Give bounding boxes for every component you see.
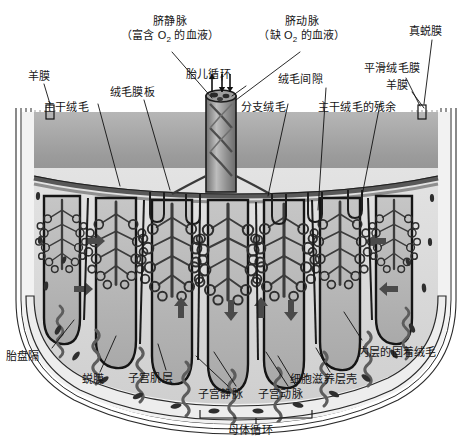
label-branch-villus: 分支绒毛	[241, 101, 286, 115]
label-amnion-left: 羊膜	[28, 70, 50, 84]
label-amnion-right: 羊膜	[386, 79, 408, 93]
label-stem-villus-left: 主干绒毛	[44, 101, 89, 115]
label-chorionic-plate: 绒毛膜板	[110, 86, 155, 100]
label-uterine-artery: 子宫动脉	[258, 388, 303, 402]
label-umbilical-artery: 脐动脉 （缺 O2 的血液）	[238, 14, 366, 46]
label-umbilical-vein: 脐静脉 （富含 O2 的血液）	[106, 14, 234, 46]
label-decidua-vera: 真蜕膜	[409, 25, 443, 39]
label-stem-villus-remnant: 主干绒毛的残余	[318, 101, 396, 115]
label-chorion-laeve: 平滑绒毛膜	[364, 62, 420, 76]
label-myometrium: 子宫肌层	[128, 372, 173, 386]
label-intervillous-space: 绒毛间隙	[278, 73, 323, 87]
label-maternal-circulation: 母体循环	[228, 424, 273, 438]
label-uterine-vein: 子宫静脉	[198, 388, 243, 402]
diagram-canvas: 羊膜 主干绒毛 绒毛膜板 脐静脉 （富含 O2 的血液） 脐动脉 （缺 O2 的…	[0, 0, 472, 443]
label-decidua: 蜕膜	[82, 373, 104, 387]
label-cytotrophoblast-shell: 细胞滋养层壳	[290, 373, 357, 387]
label-anchoring-villus: 内层的固着绒毛	[358, 346, 436, 360]
label-placental-septum: 胎盘隔	[6, 350, 40, 364]
label-fetal-circulation: 胎儿循环	[186, 68, 231, 82]
